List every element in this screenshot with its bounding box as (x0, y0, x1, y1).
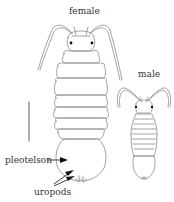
pleotelson-label: pleotelson (5, 156, 52, 165)
female-left-eye (70, 42, 73, 45)
female-right-eye (91, 42, 94, 45)
female-head (67, 31, 95, 51)
pleotelson-arrowhead (60, 157, 68, 163)
male-specimen (117, 88, 170, 179)
isopod-figure: female male pleotelson uropods (0, 0, 174, 202)
female-segment-7 (57, 129, 104, 139)
female-segment-2 (57, 63, 106, 78)
male-left-eye (135, 106, 137, 108)
female-segment-6 (55, 118, 108, 129)
male-right-eye (151, 106, 153, 108)
uropods-label: uropods (34, 188, 71, 197)
male-head (136, 100, 153, 113)
female-segment-4 (55, 95, 108, 107)
female-segment-1 (63, 51, 100, 63)
female-right-antenna (90, 25, 122, 80)
female-segment-3 (55, 78, 108, 95)
illustration (0, 0, 174, 202)
male-body (131, 114, 157, 156)
female-label: female (69, 7, 100, 16)
male-label: male (138, 70, 160, 79)
male-pleotelson (133, 156, 155, 179)
male-uropods (142, 177, 146, 179)
female-segment-5 (54, 107, 109, 118)
female-right-antenna-inner (90, 28, 120, 80)
